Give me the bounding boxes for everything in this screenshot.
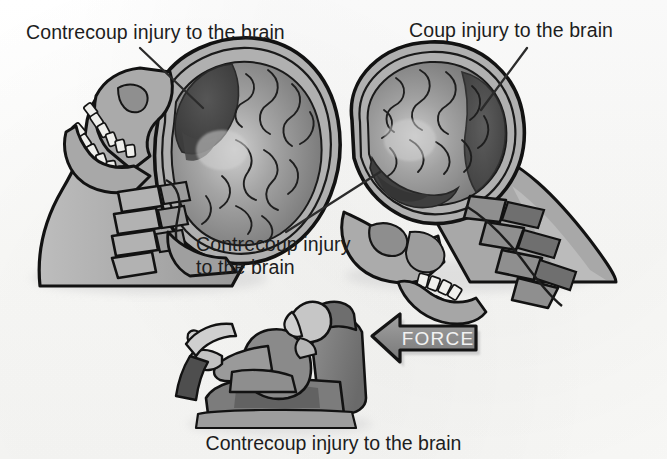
leader-line-coup-right xyxy=(481,48,527,110)
diagram-canvas: FORCE Contrecoup injury to the brain Cou… xyxy=(0,0,667,459)
force-arrow-label-text: FORCE xyxy=(402,328,475,349)
right-head-figure xyxy=(342,42,616,324)
driver-figure xyxy=(176,302,372,435)
label-contrecoup-left: Contrecoup injury to the brain xyxy=(26,21,285,44)
leader-line-contrecoup-middle xyxy=(286,172,380,232)
paper-texture xyxy=(0,0,667,459)
illustration-artwork: FORCE xyxy=(0,0,667,459)
label-coup-right: Coup injury to the brain xyxy=(409,19,613,42)
label-contrecoup-middle: Contrecoup injury to the brain xyxy=(196,233,351,279)
leader-line-contrecoup-left xyxy=(140,48,203,108)
force-arrow: FORCE xyxy=(372,314,480,367)
caption-contrecoup-bottom: Contrecoup injury to the brain xyxy=(0,432,667,455)
leader-lines xyxy=(140,48,527,232)
